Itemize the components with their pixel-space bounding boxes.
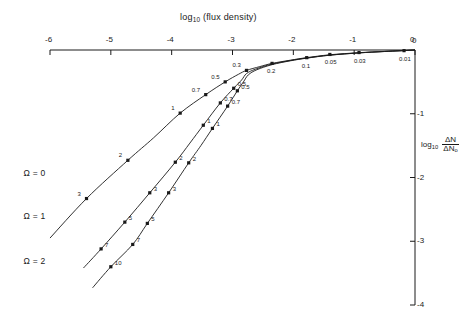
data-point-label: 1 xyxy=(207,118,210,124)
data-point-label: 1 xyxy=(216,121,219,127)
data-point-label: 0.3 xyxy=(232,62,240,68)
data-point-marker xyxy=(305,56,308,59)
data-point-label: 3 xyxy=(154,186,157,192)
curve-label-0: Ω = 0 xyxy=(23,169,45,178)
data-point-label: 2 xyxy=(193,156,196,162)
curve-line-1 xyxy=(83,50,415,268)
data-point-marker xyxy=(167,191,170,194)
data-point-label: 2 xyxy=(119,152,122,158)
x-axis-tick-label: -4 xyxy=(167,36,174,44)
x-axis-tick-label: -2 xyxy=(288,36,295,44)
data-point-marker xyxy=(131,243,134,246)
data-point-marker xyxy=(236,89,239,92)
data-point-label: 0.03 xyxy=(354,58,366,64)
data-point-marker xyxy=(179,112,182,115)
chart-plot-area xyxy=(0,0,472,317)
data-point-label: 0.5 xyxy=(211,74,219,80)
x-axis-tick-label: -1 xyxy=(349,36,356,44)
data-point-marker xyxy=(226,105,229,108)
data-point-label: 10 xyxy=(115,260,122,266)
data-point-label: 0.05 xyxy=(325,59,337,65)
data-point-label: 5 xyxy=(151,216,154,222)
curve-line-0 xyxy=(50,50,415,238)
data-point-label: 5 xyxy=(129,215,132,221)
data-point-label: 7 xyxy=(105,242,108,248)
y-axis-tick-label: -3 xyxy=(417,237,424,245)
data-point-label: 7 xyxy=(137,237,140,243)
y-axis xyxy=(410,50,415,305)
data-point-label: 0.7 xyxy=(192,87,200,93)
curve-label-2: Ω = 2 xyxy=(23,257,45,266)
data-point-marker xyxy=(109,265,112,268)
data-point-marker xyxy=(123,221,126,224)
data-point-marker xyxy=(174,161,177,164)
curve-label-1: Ω = 1 xyxy=(23,212,45,221)
x-axis-tick-label: -5 xyxy=(106,36,113,44)
data-point-label: 2 xyxy=(179,155,182,161)
x-axis-tick-label: -6 xyxy=(45,36,52,44)
figure-panel: log10 (flux density) log10 ΔN ΔNo -6-5-4… xyxy=(0,0,472,317)
data-point-marker xyxy=(187,161,190,164)
y-axis-tick-label: 0 xyxy=(412,37,416,45)
data-point-marker xyxy=(148,191,151,194)
data-point-marker xyxy=(204,93,207,96)
data-point-marker xyxy=(245,69,248,72)
data-point-marker xyxy=(270,62,273,65)
data-point-marker xyxy=(224,80,227,83)
y-axis-tick-label: -2 xyxy=(417,174,424,182)
data-point-label: 0.01 xyxy=(399,56,411,62)
data-point-label: 3 xyxy=(78,191,81,197)
data-point-label: 1 xyxy=(171,105,174,111)
curve-lines xyxy=(50,50,415,288)
data-point-marker xyxy=(219,101,222,104)
data-point-marker xyxy=(146,222,149,225)
data-point-label: 0.7 xyxy=(232,99,240,105)
y-axis-tick-label: -4 xyxy=(417,301,424,309)
data-point-marker xyxy=(232,87,235,90)
data-point-marker xyxy=(85,197,88,200)
data-point-marker xyxy=(126,159,129,162)
data-point-label: 0.5 xyxy=(241,84,249,90)
curve-line-2 xyxy=(93,50,415,288)
data-point-marker xyxy=(402,49,405,52)
data-point-marker xyxy=(357,51,360,54)
y-axis-tick-label: -1 xyxy=(417,110,424,118)
data-point-marker xyxy=(202,124,205,127)
data-point-marker xyxy=(328,53,331,56)
data-point-marker xyxy=(100,247,103,250)
data-point-marker xyxy=(211,127,214,130)
data-point-label: 0.2 xyxy=(267,68,275,74)
data-point-label: 3 xyxy=(173,186,176,192)
data-point-label: 0.1 xyxy=(302,63,310,69)
x-axis-tick-label: -3 xyxy=(228,36,235,44)
